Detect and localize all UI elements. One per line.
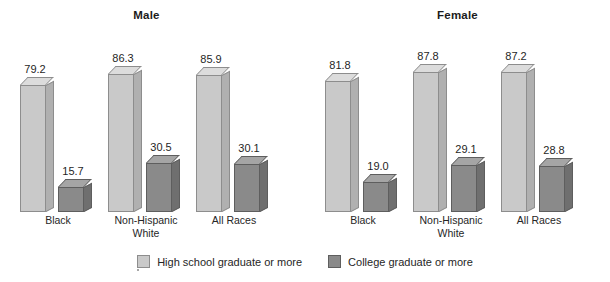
bar-side-face <box>565 162 573 212</box>
bar-female-allraces-college: 28.8 <box>539 166 565 212</box>
bar-value-female-allraces-college: 28.8 <box>530 144 578 156</box>
bar-group-female-all-races: 87.2 28.8 All Races <box>495 36 583 212</box>
bar-value-male-nhwhite-highschool: 86.3 <box>99 52 147 64</box>
grouped-bar-chart: Male 79.2 15.7 Black <box>0 0 610 282</box>
legend-swatch-highschool-icon <box>137 255 150 268</box>
bar-front-face <box>501 72 527 212</box>
bar-male-allraces-college: 30.1 <box>234 164 260 212</box>
bar-front-face <box>234 164 260 212</box>
bar-side-face <box>172 159 180 212</box>
bar-front-face <box>196 75 222 212</box>
bar-side-face <box>260 160 268 212</box>
bar-value-female-nhwhite-highschool: 87.8 <box>404 50 452 62</box>
bar-group-male-nonhispanic-white: 86.3 30.5 Non-Hispanic White <box>102 36 190 212</box>
bar-female-black-highschool: 81.8 <box>325 81 351 212</box>
bar-female-black-college: 19.0 <box>363 182 389 212</box>
legend-stray-dot <box>137 269 139 271</box>
bar-value-male-black-college: 15.7 <box>49 165 97 177</box>
bar-front-face <box>20 85 46 212</box>
bar-side-face <box>84 183 92 212</box>
bar-male-nhwhite-college: 30.5 <box>146 163 172 212</box>
bar-value-male-allraces-college: 30.1 <box>225 142 273 154</box>
bar-female-nhwhite-highschool: 87.8 <box>413 72 439 212</box>
panel-male: Male 79.2 15.7 Black <box>0 0 305 248</box>
bar-group-female-black: 81.8 19.0 Black <box>319 36 407 212</box>
bar-male-black-highschool: 79.2 <box>20 85 46 212</box>
chart-legend: High school graduate or more College gra… <box>0 255 610 268</box>
bar-side-face <box>527 68 535 212</box>
bar-male-allraces-highschool: 85.9 <box>196 75 222 212</box>
bar-group-male-black: 79.2 15.7 Black <box>14 36 102 212</box>
bar-value-female-allraces-highschool: 87.2 <box>492 50 540 62</box>
bar-male-black-college: 15.7 <box>58 187 84 212</box>
legend-label-college: College graduate or more <box>348 256 473 268</box>
bar-front-face <box>58 187 84 212</box>
legend-label-highschool: High school graduate or more <box>157 256 302 268</box>
bar-front-face <box>539 166 565 212</box>
bar-front-face <box>451 165 477 212</box>
bar-side-face <box>351 77 359 212</box>
bar-front-face <box>363 182 389 212</box>
legend-swatch-college-icon <box>328 255 341 268</box>
bar-side-face <box>439 67 447 212</box>
panel-title-male: Male <box>0 9 299 21</box>
legend-item-college: College graduate or more <box>328 255 473 268</box>
bar-side-face <box>389 177 397 212</box>
bar-value-male-black-highschool: 79.2 <box>11 63 59 75</box>
category-label-female-all-races: All Races <box>485 214 593 227</box>
bar-female-allraces-highschool: 87.2 <box>501 72 527 212</box>
bar-side-face <box>46 81 54 212</box>
legend-item-highschool: High school graduate or more <box>137 255 302 268</box>
panel-title-female: Female <box>305 9 610 21</box>
bar-value-male-allraces-highschool: 85.9 <box>187 53 235 65</box>
bar-value-female-nhwhite-college: 29.1 <box>442 143 490 155</box>
bar-front-face <box>146 163 172 212</box>
bar-male-nhwhite-highschool: 86.3 <box>108 74 134 212</box>
bar-value-female-black-highschool: 81.8 <box>316 59 364 71</box>
bar-group-male-all-races: 85.9 30.1 All Races <box>190 36 278 212</box>
bar-front-face <box>108 74 134 212</box>
bar-front-face <box>413 72 439 212</box>
bar-side-face <box>477 161 485 212</box>
bar-group-female-nonhispanic-white: 87.8 29.1 Non-Hispanic White <box>407 36 495 212</box>
panel-female: Female 81.8 19.0 Black <box>305 0 610 248</box>
bar-female-nhwhite-college: 29.1 <box>451 165 477 212</box>
category-label-male-all-races: All Races <box>180 214 288 227</box>
bar-value-female-black-college: 19.0 <box>354 160 402 172</box>
bar-front-face <box>325 81 351 212</box>
bar-value-male-nhwhite-college: 30.5 <box>137 141 185 153</box>
